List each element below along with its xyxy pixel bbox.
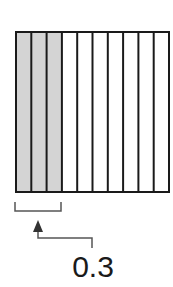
shaded-columns <box>16 32 62 192</box>
arrow-icon <box>33 220 92 248</box>
bracket <box>15 202 61 211</box>
decimal-label: 0.3 <box>68 250 118 284</box>
decimal-model-figure <box>0 0 173 287</box>
